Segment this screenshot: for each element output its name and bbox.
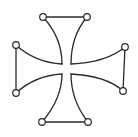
right-arm-bottom-curve <box>71 74 123 91</box>
node-left-top <box>13 42 20 49</box>
node-top-left <box>40 14 47 21</box>
cross-pattee-diagram <box>0 0 138 137</box>
bottom-arm-right-curve <box>71 74 88 122</box>
top-arm-right-curve <box>71 17 87 64</box>
top-arm-left-curve <box>43 17 62 64</box>
left-arm-bottom-curve <box>16 74 62 93</box>
node-left-bottom <box>13 90 20 97</box>
node-right-bottom <box>120 88 127 95</box>
left-arm-top-curve <box>16 45 62 64</box>
right-arm-end-line <box>123 47 125 91</box>
right-arm-top-curve <box>71 47 125 64</box>
node-top-right <box>84 14 91 21</box>
node-bottom-left <box>39 119 46 126</box>
bottom-arm-left-curve <box>42 74 62 122</box>
node-bottom-right <box>85 119 92 126</box>
node-right-top <box>122 44 129 51</box>
